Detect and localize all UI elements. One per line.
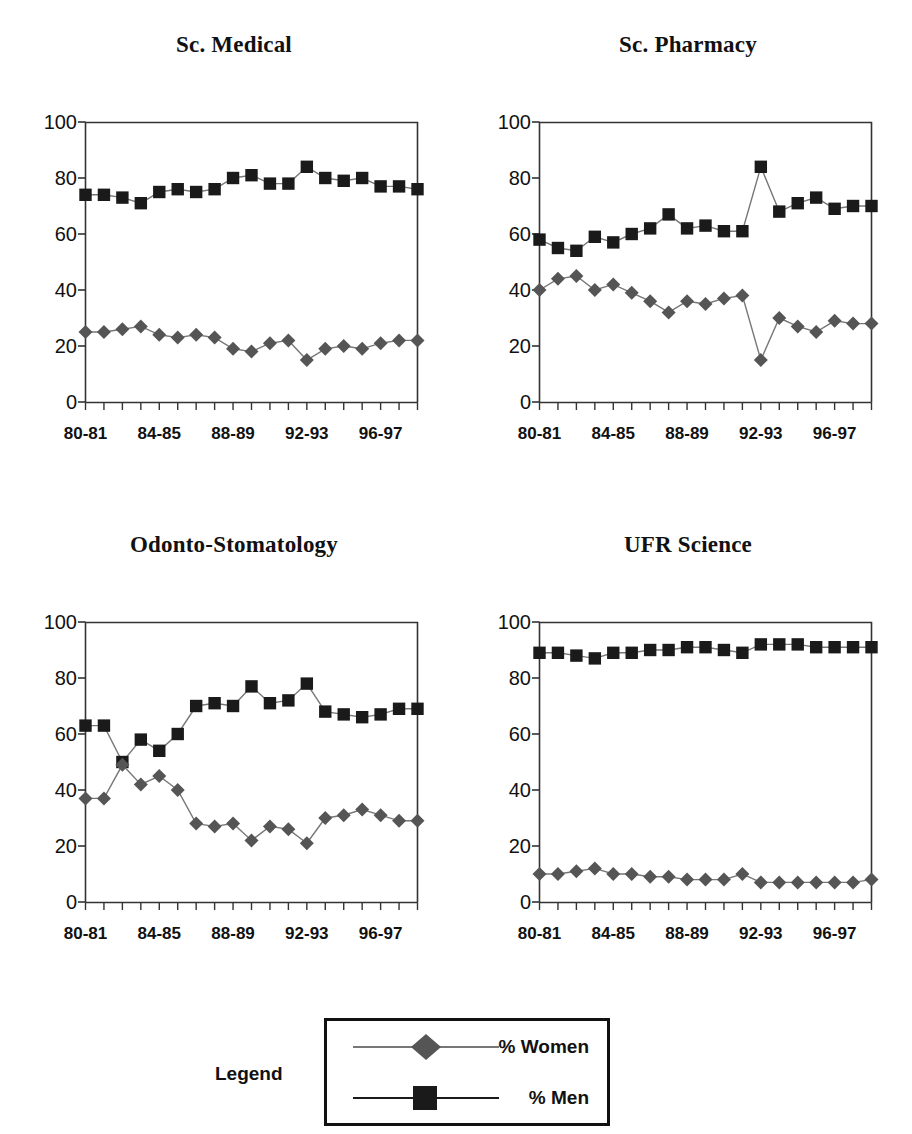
series-men [79, 677, 423, 768]
data-point-marker [846, 317, 860, 331]
plot-area-ufr-science: 02040608010080-8184-8588-8992-9396-97 [539, 622, 872, 902]
data-point-marker [263, 819, 277, 833]
x-axis-tick-label: 84-85 [138, 424, 181, 444]
data-point-marker [153, 745, 165, 757]
data-point-marker [607, 236, 619, 248]
data-point-marker [865, 641, 877, 653]
data-point-marker [411, 183, 423, 195]
data-point-marker [264, 697, 276, 709]
data-point-marker [589, 231, 601, 243]
plot-frame [86, 623, 418, 903]
data-point-marker [172, 183, 184, 195]
data-point-marker [606, 277, 620, 291]
data-point-marker [300, 836, 314, 850]
plot-frame [540, 123, 872, 403]
data-point-marker [662, 305, 676, 319]
data-point-marker [190, 186, 202, 198]
y-axis-tick-label: 20 [509, 835, 531, 858]
data-point-marker [392, 333, 406, 347]
panel-ufr-science: UFR Science 02040608010080-8184-8588-899… [478, 532, 898, 1002]
data-point-marker [301, 677, 313, 689]
panel-odonto-stomatology: Odonto-Stomatology 02040608010080-8184-8… [24, 532, 444, 1002]
y-axis-tick-label: 20 [55, 335, 77, 358]
y-axis-tick-label: 80 [55, 667, 77, 690]
y-axis-tick-label: 20 [509, 335, 531, 358]
data-point-marker [792, 197, 804, 209]
data-point-marker [374, 180, 386, 192]
series-women [533, 269, 879, 367]
series-men [533, 638, 877, 664]
data-point-marker [680, 873, 694, 887]
chart-canvas [539, 122, 872, 412]
legend-marker-men-icon [351, 1083, 501, 1113]
data-point-marker [533, 283, 547, 297]
series-line [86, 765, 418, 843]
data-point-marker [625, 286, 639, 300]
data-point-marker [569, 269, 583, 283]
x-axis-tick-label: 80-81 [64, 424, 107, 444]
data-point-marker [319, 172, 331, 184]
data-point-marker [644, 644, 656, 656]
data-point-marker [570, 649, 582, 661]
x-axis-tick-label: 96-97 [813, 924, 856, 944]
x-axis-tick-label: 84-85 [592, 424, 635, 444]
y-axis-tick-label: 80 [509, 667, 531, 690]
y-axis-tick-label: 80 [55, 167, 77, 190]
x-axis-tick-label: 84-85 [138, 924, 181, 944]
data-point-marker [374, 708, 386, 720]
data-point-marker [828, 314, 842, 328]
chart-canvas [85, 122, 418, 412]
data-point-marker [681, 641, 693, 653]
series-women [79, 758, 425, 850]
data-point-marker [699, 641, 711, 653]
data-point-marker [588, 283, 602, 297]
data-point-marker [318, 342, 332, 356]
data-point-marker [755, 638, 767, 650]
data-point-marker [189, 817, 203, 831]
data-point-marker [735, 289, 749, 303]
data-point-marker [588, 861, 602, 875]
data-point-marker [98, 719, 110, 731]
data-point-marker [319, 705, 331, 717]
data-point-marker [625, 867, 639, 881]
data-point-marker [865, 200, 877, 212]
data-point-marker [865, 873, 879, 887]
data-point-marker [115, 322, 129, 336]
panel-sc-medical: Sc. Medical 02040608010080-8184-8588-899… [24, 32, 444, 502]
data-point-marker [208, 183, 220, 195]
x-axis-tick-label: 84-85 [592, 924, 635, 944]
data-point-marker [79, 791, 93, 805]
page-title: Sc. Pharmacy [478, 32, 898, 58]
data-point-marker [865, 317, 879, 331]
data-point-marker [589, 652, 601, 664]
data-point-marker [245, 680, 257, 692]
y-axis-tick-label: 60 [55, 223, 77, 246]
x-axis-tick-label: 88-89 [211, 924, 254, 944]
y-axis-tick-label: 100 [498, 611, 531, 634]
data-point-marker [606, 867, 620, 881]
data-point-marker [355, 342, 369, 356]
data-point-marker [356, 172, 368, 184]
data-point-marker [699, 219, 711, 231]
data-point-marker [643, 294, 657, 308]
plot-area-sc-pharmacy: 02040608010080-8184-8588-8992-9396-97 [539, 122, 872, 402]
data-point-marker [355, 803, 369, 817]
y-axis-tick-label: 100 [498, 111, 531, 134]
data-point-marker [208, 819, 222, 833]
y-axis-tick-label: 0 [520, 391, 531, 414]
data-point-marker [189, 328, 203, 342]
data-point-marker [626, 228, 638, 240]
data-point-marker [772, 311, 786, 325]
x-axis-tick-label: 92-93 [285, 424, 328, 444]
data-point-marker [810, 641, 822, 653]
data-point-marker [570, 245, 582, 257]
data-point-marker [792, 638, 804, 650]
data-point-marker [356, 711, 368, 723]
data-point-marker [626, 647, 638, 659]
data-point-marker [846, 875, 860, 889]
y-axis-tick-label: 40 [509, 779, 531, 802]
data-point-marker [718, 225, 730, 237]
data-point-marker [533, 867, 547, 881]
data-point-marker [116, 191, 128, 203]
data-point-marker [282, 177, 294, 189]
